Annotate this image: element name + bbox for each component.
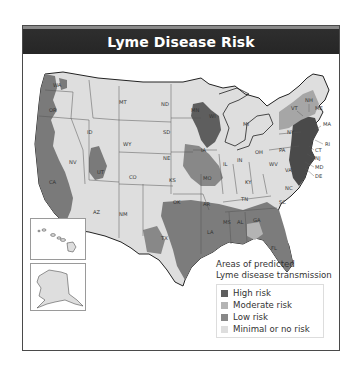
legend-title-line2: Lyme disease transmission	[216, 270, 336, 281]
alaska-map	[31, 264, 85, 310]
legend-item-low: Low risk	[221, 311, 319, 323]
label-wi: WI	[209, 113, 216, 119]
alaska-inset	[30, 263, 86, 311]
hawaii-inset	[30, 218, 86, 260]
legend-label: Moderate risk	[233, 300, 292, 310]
label-ga: GA	[253, 217, 261, 223]
legend-box: High risk Moderate risk Low risk Minimal…	[216, 284, 324, 338]
legend-item-high: High risk	[221, 287, 319, 299]
label-ks: KS	[169, 177, 176, 183]
map-frame: Lyme Disease Risk	[22, 25, 340, 351]
legend-label: Minimal or no risk	[233, 324, 310, 334]
label-mt: MT	[119, 99, 127, 105]
label-al: AL	[237, 219, 244, 225]
map-title: Lyme Disease Risk	[23, 26, 339, 56]
label-wv: WV	[269, 161, 278, 167]
label-va: VA	[285, 167, 292, 173]
label-pa: PA	[279, 147, 286, 153]
label-co: CO	[129, 174, 137, 180]
label-in: IN	[237, 157, 243, 163]
label-az: AZ	[93, 209, 101, 215]
legend-label: Low risk	[233, 312, 268, 322]
swatch-low	[221, 314, 228, 321]
label-or: OR	[49, 107, 57, 113]
label-nm: NM	[119, 211, 127, 217]
label-ny: NY	[287, 129, 295, 135]
swatch-minimal	[221, 326, 228, 333]
swatch-high	[221, 290, 228, 297]
label-md: MD	[315, 164, 323, 170]
legend-item-minimal: Minimal or no risk	[221, 323, 319, 335]
label-me: ME	[315, 105, 323, 111]
label-sc: SC	[279, 199, 286, 205]
label-tn: TN	[240, 196, 248, 202]
label-mo: MO	[203, 175, 212, 181]
label-wy: WY	[123, 141, 132, 147]
label-wa: WA	[53, 82, 62, 88]
label-ne: NE	[163, 155, 170, 161]
label-oh: OH	[255, 149, 263, 155]
legend-label: High risk	[233, 288, 271, 298]
label-ut: UT	[97, 169, 105, 175]
label-ct: CT	[315, 147, 323, 153]
label-vt: VT	[291, 105, 299, 111]
label-de: DE	[315, 173, 322, 179]
label-ms: MS	[223, 219, 231, 225]
label-il: IL	[223, 161, 228, 167]
label-nc: NC	[285, 185, 293, 191]
legend-item-moderate: Moderate risk	[221, 299, 319, 311]
label-la: LA	[207, 229, 214, 235]
label-id: ID	[87, 129, 93, 135]
label-ia: IA	[201, 147, 207, 153]
label-tx: TX	[160, 235, 168, 241]
label-fl: FL	[271, 245, 277, 251]
label-ky: KY	[245, 179, 252, 185]
label-nh: NH	[305, 97, 313, 103]
label-mi: MI	[243, 121, 249, 127]
label-ri: RI	[325, 141, 331, 147]
label-nj: NJ	[315, 155, 321, 162]
label-nv: NV	[69, 159, 77, 165]
legend-title-line1: Areas of predicted	[216, 259, 336, 270]
swatch-moderate	[221, 302, 228, 309]
hawaii-map	[31, 219, 85, 259]
title-bar: Lyme Disease Risk	[23, 26, 339, 54]
label-ma: MA	[323, 121, 331, 127]
legend: Areas of predicted Lyme disease transmis…	[216, 259, 336, 338]
label-sd: SD	[163, 129, 170, 135]
label-ok: OK	[173, 199, 181, 205]
label-nd: ND	[161, 101, 169, 107]
label-mn: MN	[191, 107, 199, 113]
label-ar: AR	[203, 201, 211, 207]
label-ca: CA	[49, 179, 57, 185]
